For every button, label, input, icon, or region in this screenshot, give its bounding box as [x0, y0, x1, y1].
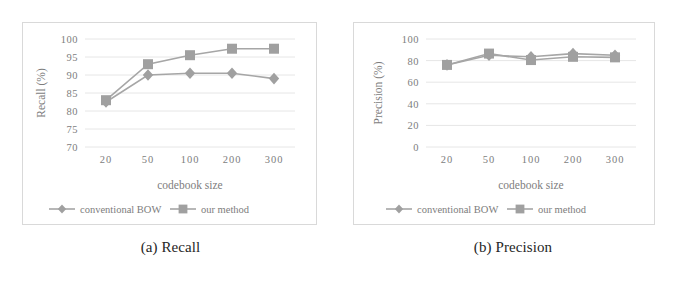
data-point-square	[143, 59, 153, 69]
panel-caption-recall: (a) Recall	[0, 239, 347, 256]
x-axis-tick-label: 100	[181, 154, 200, 165]
data-point-square	[610, 52, 620, 62]
y-axis-tick-label: 100	[402, 34, 419, 45]
panel-caption-precision: (b) Precision	[341, 239, 681, 256]
y-axis-tick-label: 80	[67, 106, 79, 117]
y-axis-tick-label: 60	[408, 77, 420, 88]
x-axis-title: codebook size	[157, 179, 222, 191]
data-point-diamond	[143, 69, 153, 81]
data-point-square	[568, 52, 578, 62]
x-axis-title: codebook size	[498, 179, 563, 191]
y-axis-tick-label: 40	[408, 99, 420, 110]
legend-marker-square	[516, 205, 525, 214]
data-point-square	[185, 50, 195, 60]
data-point-diamond	[185, 67, 195, 79]
data-point-square	[101, 95, 111, 105]
y-axis-tick-label: 70	[67, 142, 79, 153]
y-axis-title: Precision (%)	[372, 61, 385, 124]
x-axis-tick-label: 50	[483, 154, 496, 165]
x-axis-tick-label: 300	[606, 154, 625, 165]
chart-recall: 707580859095100Recall (%)2050100200300co…	[22, 22, 317, 225]
legend-marker-diamond	[395, 204, 403, 213]
y-axis-tick-label: 0	[413, 142, 419, 153]
data-point-square	[442, 60, 452, 70]
figure-panel-precision: 020406080100Precision (%)2050100200300co…	[341, 0, 681, 256]
y-axis-tick-label: 95	[67, 52, 79, 63]
y-axis-tick-label: 80	[408, 56, 420, 67]
legend-marker-square	[179, 205, 188, 214]
y-axis-title: Recall (%)	[35, 68, 48, 118]
recall-plot-svg: 707580859095100Recall (%)2050100200300co…	[23, 23, 316, 224]
x-axis-tick-label: 20	[441, 154, 454, 165]
x-axis-tick-label: 200	[223, 154, 242, 165]
legend-label-our-method: our method	[538, 204, 587, 215]
figure-panel-recall: 707580859095100Recall (%)2050100200300co…	[0, 0, 341, 256]
y-axis-tick-label: 90	[67, 70, 79, 81]
y-axis-tick-label: 85	[67, 88, 79, 99]
x-axis-tick-label: 200	[564, 154, 583, 165]
data-point-square	[269, 44, 279, 54]
x-axis-tick-label: 300	[265, 154, 284, 165]
chart-precision: 020406080100Precision (%)2050100200300co…	[353, 22, 655, 225]
legend-marker-diamond	[58, 204, 66, 213]
y-axis-tick-label: 75	[67, 124, 79, 135]
data-point-square	[484, 49, 494, 59]
legend-label-conventional-bow: conventional BOW	[417, 204, 498, 215]
figure-root: 707580859095100Recall (%)2050100200300co…	[0, 0, 681, 299]
x-axis-tick-label: 20	[100, 154, 113, 165]
data-point-square	[227, 44, 237, 54]
data-point-diamond	[227, 67, 237, 79]
precision-plot-svg: 020406080100Precision (%)2050100200300co…	[354, 23, 654, 224]
legend-label-our-method: our method	[201, 204, 250, 215]
x-axis-tick-label: 50	[142, 154, 155, 165]
data-point-square	[526, 55, 536, 65]
y-axis-tick-label: 20	[408, 120, 420, 131]
legend-label-conventional-bow: conventional BOW	[80, 204, 161, 215]
y-axis-tick-label: 100	[61, 34, 78, 45]
x-axis-tick-label: 100	[522, 154, 541, 165]
